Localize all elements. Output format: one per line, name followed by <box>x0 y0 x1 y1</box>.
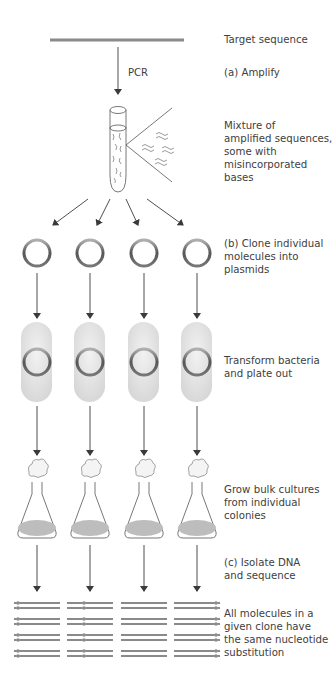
clone-2-sequences <box>67 603 113 656</box>
clone-label: (b) Clone individual molecules into plas… <box>224 237 323 276</box>
bacterium-icon <box>128 322 159 402</box>
test-tube-icon <box>110 107 174 193</box>
flask-icon <box>18 459 56 538</box>
pcr-label: PCR <box>128 67 148 78</box>
bacteria-row <box>21 322 212 402</box>
result-label: All molecules in a given clone have the … <box>224 607 328 659</box>
mixture-label: Mixture of amplified sequences, some wit… <box>224 119 332 184</box>
arrows-to-flasks <box>37 406 197 455</box>
arrows-to-sequences <box>37 545 197 591</box>
plasmid-icon <box>184 240 210 266</box>
flasks-row <box>18 459 216 538</box>
plasmids-row <box>24 240 210 266</box>
clone-3-sequences <box>121 603 167 656</box>
flask-icon <box>71 459 109 538</box>
substitution-markers <box>16 601 217 657</box>
transform-label: Transform bacteria and plate out <box>224 354 320 380</box>
arrows-to-bacteria <box>37 273 197 318</box>
sequence-results <box>14 601 220 657</box>
distribution-arrows <box>53 199 183 225</box>
flask-icon <box>125 459 163 538</box>
bacterium-icon <box>74 322 105 402</box>
bacterium-icon <box>21 322 52 402</box>
plasmid-icon <box>77 240 103 266</box>
grow-label: Grow bulk cultures from individual colon… <box>224 483 319 522</box>
bacterium-icon <box>181 322 212 402</box>
flask-icon <box>178 459 216 538</box>
amplify-label: (a) Amplify <box>224 66 280 79</box>
clone-4-sequences <box>174 603 220 656</box>
target-sequence-label: Target sequence <box>224 33 308 46</box>
clone-1-sequences <box>14 603 60 656</box>
plasmid-icon <box>131 240 157 266</box>
isolate-label: (c) Isolate DNA and sequence <box>224 556 300 582</box>
plasmid-icon <box>24 240 50 266</box>
